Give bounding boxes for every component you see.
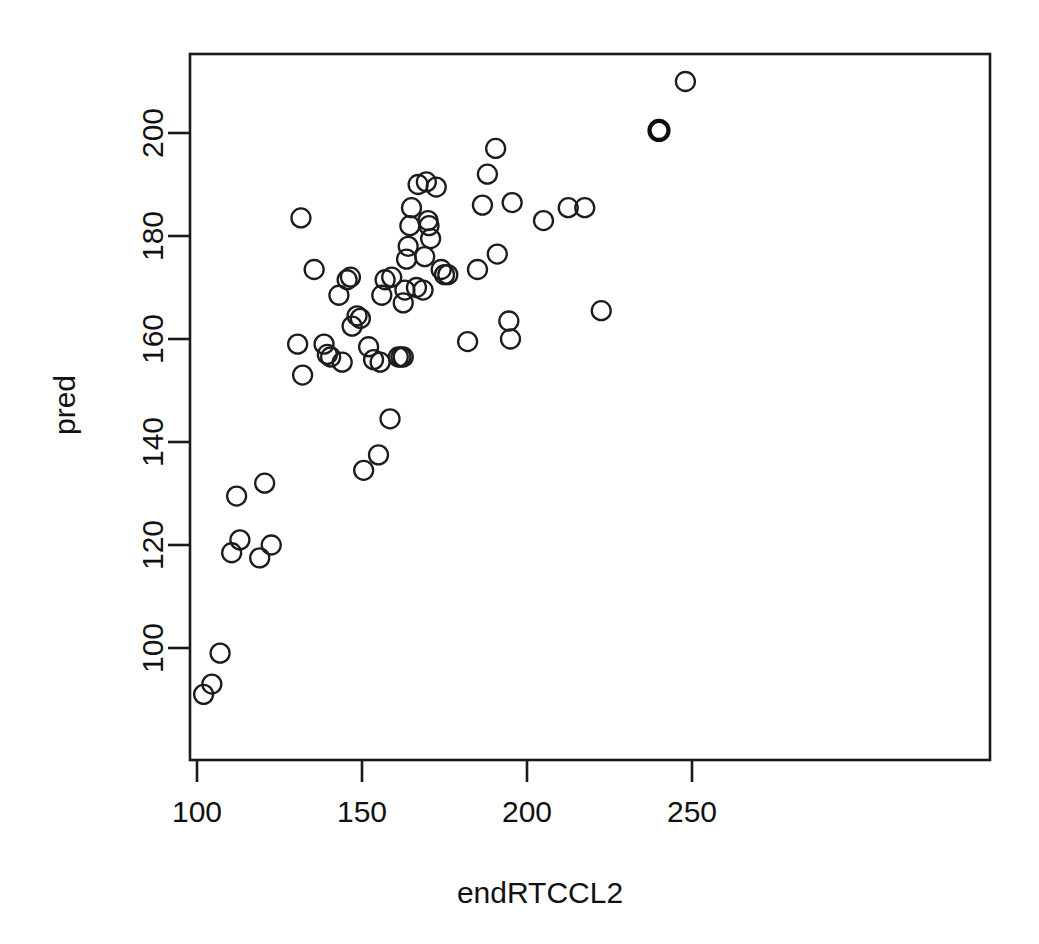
y-tick-label: 200 — [136, 108, 169, 158]
x-tick-label: 100 — [172, 795, 222, 828]
data-point — [381, 409, 400, 428]
y-tick-label: 120 — [136, 520, 169, 570]
data-point — [415, 247, 434, 266]
data-point — [369, 445, 388, 464]
data-point — [354, 461, 373, 480]
data-point — [534, 211, 553, 230]
data-point — [402, 198, 421, 217]
data-point — [288, 335, 307, 354]
data-point — [468, 260, 487, 279]
data-point — [473, 196, 492, 215]
data-point — [421, 229, 440, 248]
y-tick-label: 160 — [136, 314, 169, 364]
x-axis-title: endRTCCL2 — [457, 876, 623, 909]
data-point — [262, 536, 281, 555]
x-tick-label: 200 — [502, 795, 552, 828]
plot-canvas: 100150200250 100120140160180200 endRTCCL… — [0, 0, 1039, 944]
y-axis-ticks: 100120140160180200 — [136, 108, 191, 673]
data-point — [211, 644, 230, 663]
data-point — [291, 208, 310, 227]
data-point — [227, 487, 246, 506]
data-point — [501, 330, 520, 349]
data-point — [503, 193, 522, 212]
y-tick-label: 100 — [136, 623, 169, 673]
data-point — [293, 366, 312, 385]
y-tick-label: 180 — [136, 211, 169, 261]
data-point — [305, 260, 324, 279]
scatter-plot-figure: 100150200250 100120140160180200 endRTCCL… — [0, 0, 1039, 944]
data-point — [650, 121, 669, 140]
y-axis-title: pred — [48, 375, 81, 435]
x-tick-label: 150 — [337, 795, 387, 828]
data-point — [458, 332, 477, 351]
data-point — [499, 311, 518, 330]
y-tick-label: 140 — [136, 417, 169, 467]
data-point — [676, 72, 695, 91]
data-point — [250, 548, 269, 567]
data-point — [592, 301, 611, 320]
data-point — [478, 165, 497, 184]
data-point — [371, 353, 390, 372]
data-point — [400, 216, 419, 235]
data-point — [333, 353, 352, 372]
data-points-layer — [194, 72, 695, 704]
data-point — [486, 139, 505, 158]
plot-frame — [190, 54, 990, 760]
x-tick-label: 250 — [667, 795, 717, 828]
data-point — [488, 245, 507, 264]
data-point — [414, 281, 433, 300]
x-axis-ticks: 100150200250 — [172, 760, 717, 828]
data-point — [255, 474, 274, 493]
